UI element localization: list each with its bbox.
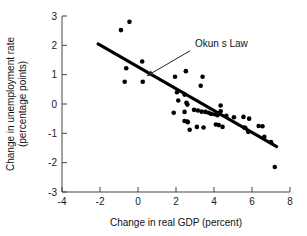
axes-group bbox=[62, 16, 290, 192]
data-point bbox=[232, 115, 237, 120]
data-point bbox=[122, 79, 127, 84]
chart-canvas: 3210-1-2-3 -4-202468 Okun s Law Change i… bbox=[0, 0, 307, 236]
data-point bbox=[175, 90, 180, 95]
data-point bbox=[195, 125, 200, 130]
data-point bbox=[269, 140, 274, 145]
data-point bbox=[173, 74, 178, 79]
data-point bbox=[185, 119, 190, 124]
data-point bbox=[241, 115, 246, 120]
annotation-layer: Okun s Law bbox=[147, 38, 249, 76]
x-tick-label: 0 bbox=[135, 196, 141, 207]
x-tick-label: 6 bbox=[249, 196, 255, 207]
data-point bbox=[124, 66, 129, 71]
data-point bbox=[127, 20, 132, 25]
data-point bbox=[198, 84, 203, 89]
data-point bbox=[246, 130, 251, 135]
x-tick-label: -4 bbox=[58, 196, 67, 207]
data-point bbox=[224, 113, 229, 118]
data-point bbox=[185, 102, 190, 107]
data-point bbox=[182, 110, 187, 115]
y-tick-label: 2 bbox=[51, 40, 57, 51]
y-tick-label: 1 bbox=[51, 69, 57, 80]
y-axis-title-line1: Change in unemployment rate bbox=[5, 37, 16, 171]
data-point bbox=[243, 126, 248, 131]
data-point bbox=[184, 69, 189, 74]
y-tick-label: -2 bbox=[48, 157, 57, 168]
data-point bbox=[260, 124, 265, 129]
data-point bbox=[119, 28, 124, 33]
data-point bbox=[182, 92, 187, 97]
x-tick-label: 8 bbox=[287, 196, 293, 207]
data-point bbox=[273, 165, 278, 170]
y-axis-title-line2: (percentage points) bbox=[17, 61, 28, 147]
data-point bbox=[218, 109, 223, 114]
data-point bbox=[218, 103, 223, 108]
x-tick-label: -2 bbox=[96, 196, 105, 207]
okuns-law-annotation-label: Okun s Law bbox=[195, 38, 249, 49]
data-point bbox=[171, 111, 176, 116]
y-tick-label: -1 bbox=[48, 128, 57, 139]
data-point bbox=[187, 128, 192, 133]
data-point bbox=[201, 125, 206, 130]
data-point bbox=[140, 79, 145, 84]
x-tick-label: 4 bbox=[211, 196, 217, 207]
x-tick-label: 2 bbox=[173, 196, 179, 207]
x-axis-title: Change in real GDP (percent) bbox=[110, 217, 242, 228]
data-point bbox=[247, 116, 252, 121]
data-point bbox=[140, 59, 145, 64]
data-point bbox=[176, 98, 181, 103]
y-axis-ticks: 3210-1-2-3 bbox=[48, 11, 67, 198]
data-point bbox=[220, 125, 225, 130]
data-point bbox=[262, 135, 267, 140]
data-point bbox=[200, 74, 205, 79]
y-tick-label: 0 bbox=[51, 99, 57, 110]
y-tick-label: 3 bbox=[51, 11, 57, 22]
y-tick-label: -3 bbox=[48, 187, 57, 198]
okuns-law-scatter-chart: 3210-1-2-3 -4-202468 Okun s Law Change i… bbox=[0, 0, 307, 236]
data-point bbox=[215, 113, 220, 118]
x-axis-ticks: -4-202468 bbox=[58, 187, 294, 207]
